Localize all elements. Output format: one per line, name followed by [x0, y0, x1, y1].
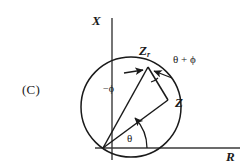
annotation-minus-phi: −ϕ	[103, 84, 114, 94]
x-axis-label: X	[92, 14, 101, 27]
point-label-zr-subscript: r	[147, 50, 150, 59]
point-label-zr-base: Z	[139, 43, 147, 58]
point-label-z: Z	[175, 96, 183, 109]
minus-phi-leader-arrow	[124, 70, 143, 73]
vector-origin-to-zr	[103, 67, 148, 148]
point-label-zr: Zr	[139, 44, 150, 57]
annotation-theta: θ	[127, 133, 132, 144]
annotation-theta-plus-phi: θ + ϕ	[173, 54, 196, 65]
figure-panel-c: (C) X R Zr Z θ + ϕ −ϕ θ	[0, 0, 245, 166]
panel-label: (C)	[22, 83, 40, 96]
r-axis-label: R	[226, 150, 235, 163]
vector-origin-to-z	[103, 100, 168, 148]
